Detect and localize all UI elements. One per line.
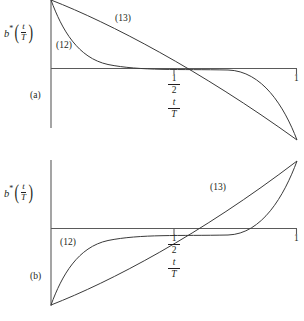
panel-a-y-label-argument: t T [21,22,27,42]
panel-b-y-label-paren-left: ( [15,183,20,200]
panel-a-x-axis-variable-label: t T [168,98,180,119]
panel-a-curve-13-label: (13) [115,14,131,24]
panel-a-xtick-one-label: 1 [294,74,299,84]
figure-container: b* ( t T ) (13) (12) (a) 1 2 t T 1 b* ( … [0,0,304,321]
figure-canvas [0,0,304,321]
panel-a-xtick-half-label: 1 2 [168,74,180,95]
panel-b-curve-13-label: (13) [210,183,226,193]
panel-a-y-label-paren-left: ( [15,23,20,40]
panel-a-curve-12-label: (12) [56,41,72,51]
panel-b-y-axis-label-base: b* [4,185,13,199]
panel-a-y-axis-label-base: b* [4,25,13,39]
panel-b-y-label-paren-right: ) [28,183,33,200]
panel-b-curve-12-label: (12) [60,238,76,248]
panel-b-id-label: (b) [30,272,41,282]
panel-b-xtick-one-label: 1 [294,234,299,244]
panel-b-xtick-half-label: 1 2 [168,234,180,255]
panel-b-y-label-argument: t T [21,182,27,202]
panel-b-x-axis-variable-label: t T [168,258,180,279]
panel-a-y-axis-label-superscript: * [9,24,13,33]
panel-a-y-axis-label: b* ( t T ) [4,22,34,42]
panel-a-y-label-paren-right: ) [28,23,33,40]
panel-a-id-label: (a) [30,91,41,101]
panel-b-y-axis-label-superscript: * [9,184,13,193]
panel-b-y-axis-label: b* ( t T ) [4,182,34,202]
